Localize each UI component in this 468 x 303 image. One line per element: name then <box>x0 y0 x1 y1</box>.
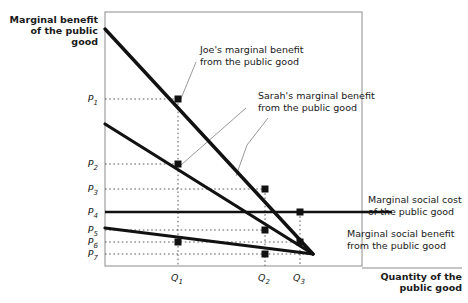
annotation-sarah-line2: from the public good <box>258 102 375 114</box>
marker-msb-q1 <box>175 96 182 103</box>
x-axis-title-line2: public good <box>362 282 462 293</box>
x-tick-label-q3: Q3 <box>293 272 305 286</box>
x-tick-label-q1: Q1 <box>171 272 183 286</box>
annotation-msc: Marginal social cost of the public good <box>368 194 462 217</box>
y-tick-label-p3: P3 <box>68 183 98 197</box>
x-axis-title: Quantity of the public good <box>362 271 462 293</box>
y-tick-label-p2: P2 <box>68 158 98 172</box>
y-axis-title-line1: Marginal benefit <box>4 14 98 25</box>
annotation-sarah-line1: Sarah's marginal benefit <box>258 90 375 102</box>
marker-msb-q3 <box>297 209 304 216</box>
y-axis-title: Marginal benefit of the public good <box>4 14 98 47</box>
annotation-msb: Marginal social benefit from the public … <box>347 228 454 251</box>
marker-joe-q3 <box>297 239 304 246</box>
marker-msb-q2 <box>262 186 269 193</box>
marker-sarah-q2 <box>262 251 269 258</box>
chart-figure: Marginal benefit of the public good Quan… <box>0 0 468 303</box>
annotation-msc-line1: Marginal social cost <box>368 194 462 206</box>
data-point-markers <box>175 96 304 258</box>
annotation-msb-line2: from the public good <box>347 240 454 252</box>
annotation-joe-line2: from the public good <box>200 56 303 68</box>
y-tick-label-p7: P7 <box>68 248 98 262</box>
annotation-joe: Joe's marginal benefit from the public g… <box>200 44 303 67</box>
y-tick-label-p4: P4 <box>68 206 98 220</box>
annotation-sarah: Sarah's marginal benefit from the public… <box>258 90 375 113</box>
marker-sarah-q1 <box>175 239 182 246</box>
series-line-sarah <box>105 228 313 254</box>
marker-joe-q1 <box>175 161 182 168</box>
y-tick-label-p1: P1 <box>68 93 98 107</box>
y-axis-title-line2: of the public good <box>4 25 98 47</box>
marker-joe-q2 <box>262 227 269 234</box>
x-axis-title-line1: Quantity of the <box>362 271 462 282</box>
annotation-joe-line1: Joe's marginal benefit <box>200 44 303 56</box>
annotation-msb-line1: Marginal social benefit <box>347 228 454 240</box>
x-tick-label-q2: Q2 <box>258 272 270 286</box>
annotation-msc-line2: of the public good <box>368 206 462 218</box>
